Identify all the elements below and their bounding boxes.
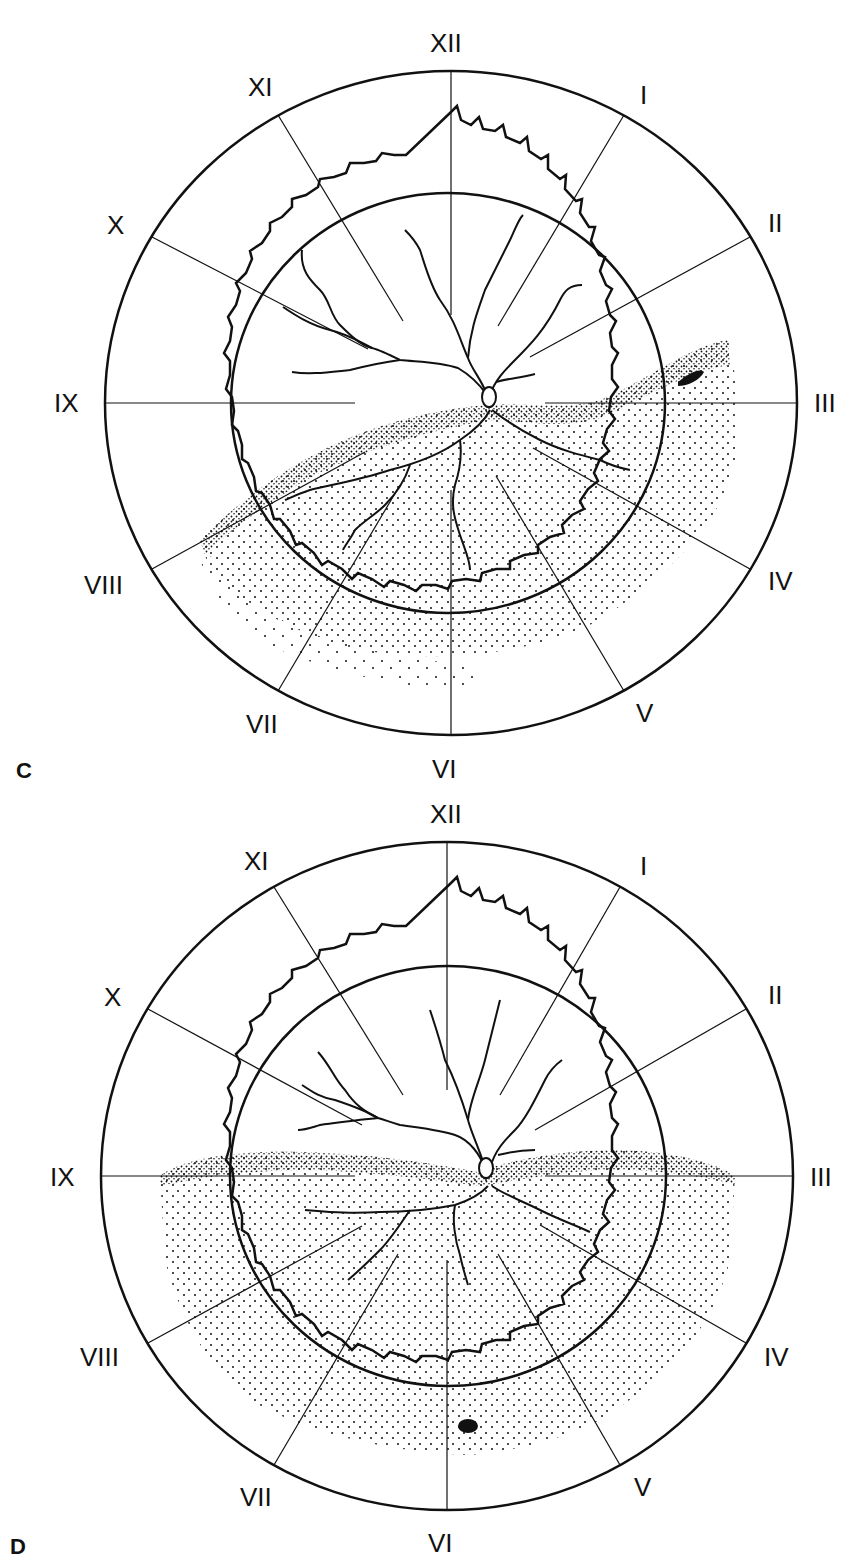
clock-label-v: V: [636, 698, 654, 728]
retinal-hole-icon: [458, 1419, 478, 1433]
optic-disc-c: [482, 387, 496, 407]
clock-label-iv: IV: [764, 1342, 789, 1372]
clock-label-ix: IX: [54, 388, 79, 418]
detachment-region-c: [200, 340, 736, 690]
clock-label-x: X: [107, 210, 124, 240]
clock-label-vi: VI: [428, 1528, 453, 1558]
panel-label-d: D: [10, 1534, 26, 1559]
panel-label-c: C: [16, 758, 32, 783]
clock-label-ii: II: [768, 208, 782, 238]
clock-label-ix: IX: [50, 1162, 75, 1192]
panel-d: XII I II III IV V VI VII VIII IX X XI D: [10, 799, 832, 1559]
clock-label-viii: VIII: [84, 570, 123, 600]
clock-label-xii: XII: [430, 799, 462, 829]
clock-label-vii: VII: [240, 1482, 272, 1512]
clock-label-iii: III: [810, 1162, 832, 1192]
clock-label-iii: III: [814, 388, 836, 418]
clock-label-iv: IV: [768, 566, 793, 596]
clock-label-vi: VI: [432, 754, 457, 784]
clock-label-v: V: [634, 1472, 652, 1502]
figure-canvas: XII I II III IV V VI VII VIII IX X XI C: [0, 0, 864, 1565]
clock-label-xi: XI: [248, 72, 273, 102]
clock-label-i: I: [640, 80, 647, 110]
clock-label-xi: XI: [244, 846, 269, 876]
clock-label-i: I: [640, 851, 647, 881]
optic-disc-d: [479, 1158, 493, 1178]
clock-label-vii: VII: [246, 709, 278, 739]
clock-label-viii: VIII: [80, 1342, 119, 1372]
clock-label-x: X: [104, 982, 121, 1012]
clock-meridians-c: [105, 71, 797, 735]
panel-c: XII I II III IV V VI VII VIII IX X XI C: [16, 28, 836, 784]
clock-label-ii: II: [768, 980, 782, 1010]
clock-label-xii: XII: [430, 28, 462, 58]
